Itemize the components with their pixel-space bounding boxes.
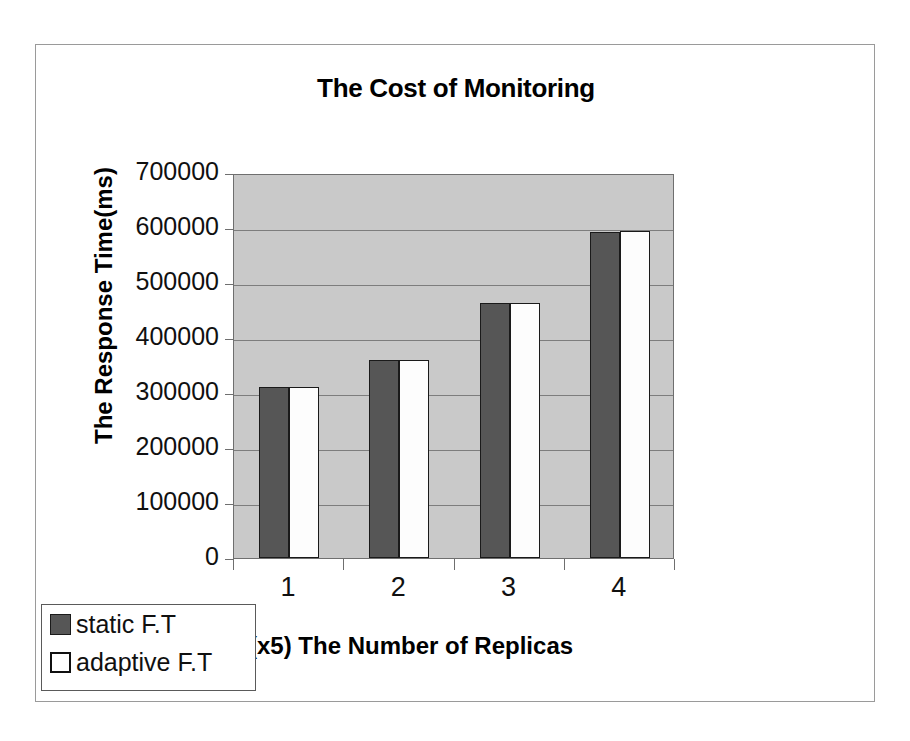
x-axis-tick-label-4: 4 xyxy=(589,572,649,603)
gridline xyxy=(234,230,673,231)
legend-swatch-icon xyxy=(50,614,71,635)
x-axis-tick-mark xyxy=(564,559,565,570)
y-axis-tick-label: 300000 xyxy=(39,377,219,406)
y-axis-tick-label: 400000 xyxy=(39,322,219,351)
x-axis-title: (x5) The Number of Replicas xyxy=(249,632,573,660)
bar-adaptive-f-t-4 xyxy=(620,231,650,558)
y-axis-tick-label: 100000 xyxy=(39,487,219,516)
y-axis-tick-label: 700000 xyxy=(39,157,219,186)
y-axis-tick-label: 0 xyxy=(39,542,219,571)
y-axis-tick-label: 500000 xyxy=(39,267,219,296)
chart-title: The Cost of Monitoring xyxy=(36,73,876,104)
x-axis-tick-mark xyxy=(343,559,344,570)
bar-static-f-t-4 xyxy=(590,232,620,558)
x-axis-tick-mark xyxy=(674,559,675,570)
y-axis-tick-label: 200000 xyxy=(39,432,219,461)
bar-static-f-t-1 xyxy=(259,387,289,558)
x-axis-tick-label-1: 1 xyxy=(258,572,318,603)
bar-adaptive-f-t-3 xyxy=(510,303,540,558)
chart-screenshot: The Cost of Monitoring The Response Time… xyxy=(0,0,910,741)
bar-adaptive-f-t-2 xyxy=(399,360,429,558)
legend-item-adaptive-f-t[interactable]: adaptive F.T xyxy=(50,650,212,675)
legend-label: static F.T xyxy=(76,612,176,637)
bar-adaptive-f-t-1 xyxy=(289,387,319,558)
x-axis-tick-mark xyxy=(454,559,455,570)
bar-static-f-t-3 xyxy=(480,303,510,558)
y-axis-tick-label: 600000 xyxy=(39,212,219,241)
legend-item-static-f-t[interactable]: static F.T xyxy=(50,612,176,637)
legend-label: adaptive F.T xyxy=(76,650,212,675)
legend: static F.Tadaptive F.T xyxy=(41,604,256,691)
chart-frame: The Cost of Monitoring The Response Time… xyxy=(35,44,875,702)
x-axis-tick-mark xyxy=(233,559,234,570)
x-axis-tick-label-3: 3 xyxy=(479,572,539,603)
legend-swatch-icon xyxy=(50,652,71,673)
plot-area xyxy=(233,174,674,559)
x-axis-tick-label-2: 2 xyxy=(368,572,428,603)
bar-static-f-t-2 xyxy=(369,360,399,558)
